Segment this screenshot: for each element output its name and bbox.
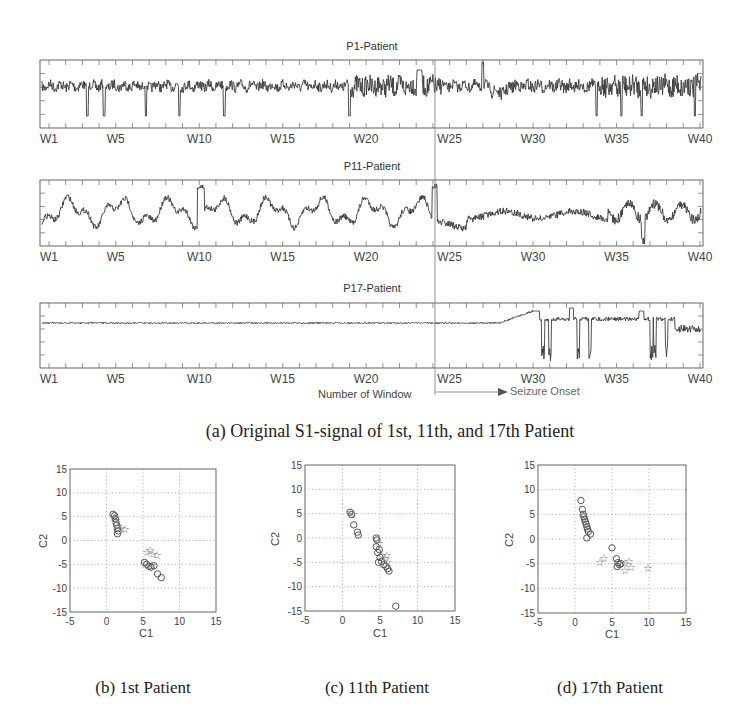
svg-text:-10: -10	[521, 583, 536, 594]
svg-text:-10: -10	[288, 581, 303, 592]
svg-text:5: 5	[61, 511, 67, 522]
svg-text:5: 5	[609, 617, 615, 628]
scatter-d-xlabel: C1	[605, 628, 619, 640]
svg-text:5: 5	[296, 508, 302, 519]
svg-text:10: 10	[412, 615, 424, 626]
svg-text:5: 5	[377, 615, 383, 626]
svg-text:☆: ☆	[120, 523, 130, 535]
svg-text:☆: ☆	[620, 564, 630, 576]
scatter-plot: -5051015-15-10-5051015☆☆☆☆☆☆☆	[521, 460, 692, 629]
svg-text:-5: -5	[534, 617, 543, 628]
svg-text:10: 10	[643, 617, 655, 628]
svg-text:-15: -15	[521, 608, 536, 619]
svg-text:0: 0	[572, 617, 578, 628]
svg-text:10: 10	[174, 616, 186, 627]
svg-text:-15: -15	[53, 607, 68, 618]
svg-text:0: 0	[296, 533, 302, 544]
svg-text:15: 15	[56, 464, 68, 475]
svg-text:☆: ☆	[374, 537, 384, 549]
svg-text:0: 0	[104, 616, 110, 627]
svg-text:15: 15	[524, 460, 536, 471]
svg-text:15: 15	[449, 615, 461, 626]
scatter-c-xlabel: C1	[373, 627, 387, 639]
svg-text:☆: ☆	[643, 562, 653, 574]
svg-text:15: 15	[680, 617, 692, 628]
svg-text:0: 0	[61, 535, 67, 546]
svg-text:5: 5	[140, 616, 146, 627]
svg-text:-10: -10	[53, 583, 68, 594]
svg-text:15: 15	[291, 460, 303, 471]
scatter-b-ylabel: C2	[37, 534, 49, 548]
svg-text:10: 10	[291, 484, 303, 495]
scatter-plot: -5051015-15-10-5051015☆☆☆☆☆☆☆	[288, 460, 461, 627]
scatter-b-xlabel: C1	[139, 627, 153, 639]
caption-d: (d) 17th Patient	[557, 678, 663, 698]
scatter-c-ylabel: C2	[269, 532, 281, 546]
svg-text:10: 10	[524, 484, 536, 495]
scatter-plot: -5051015-15-10-5051015☆☆☆☆☆☆☆☆☆☆☆	[53, 464, 222, 628]
svg-text:15: 15	[210, 616, 222, 627]
svg-text:-5: -5	[301, 615, 310, 626]
svg-text:-5: -5	[526, 558, 535, 569]
scatter-d-ylabel: C2	[503, 533, 515, 547]
svg-text:☆: ☆	[599, 552, 609, 564]
svg-text:☆: ☆	[383, 556, 393, 568]
scatter-plots-svg: -5051015-15-10-5051015☆☆☆☆☆☆☆☆☆☆☆-505101…	[0, 0, 746, 708]
svg-text:5: 5	[529, 509, 535, 520]
svg-text:-15: -15	[288, 606, 303, 617]
svg-text:-5: -5	[66, 616, 75, 627]
svg-text:10: 10	[56, 487, 68, 498]
svg-text:-5: -5	[58, 559, 67, 570]
svg-text:-5: -5	[293, 557, 302, 568]
svg-text:☆: ☆	[348, 508, 358, 520]
caption-c: (c) 11th Patient	[325, 678, 429, 698]
svg-text:0: 0	[529, 534, 535, 545]
caption-b: (b) 1st Patient	[95, 678, 190, 698]
svg-text:☆: ☆	[147, 559, 157, 571]
svg-text:0: 0	[340, 615, 346, 626]
